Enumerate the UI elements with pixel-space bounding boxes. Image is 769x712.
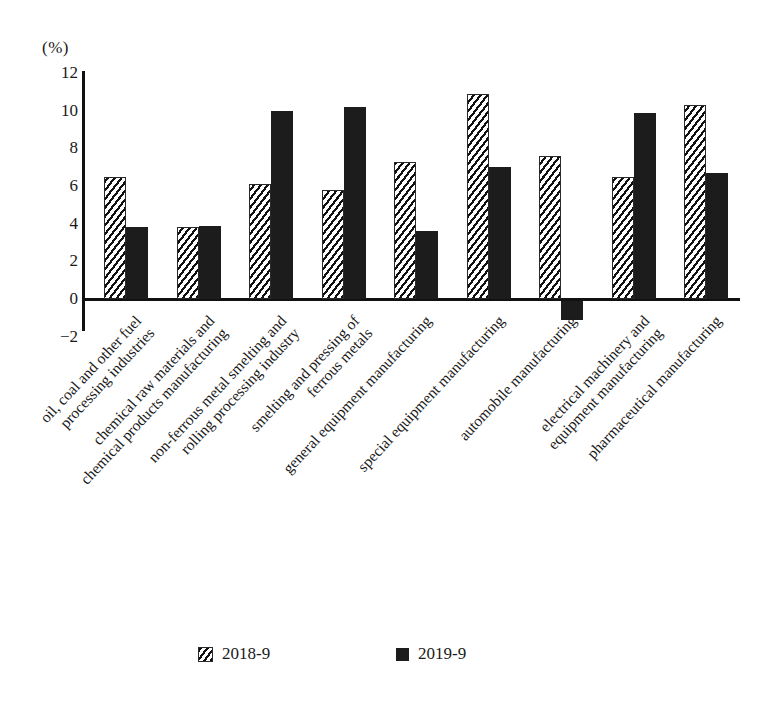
x-axis-category-labels: oil, coal and other fuelprocessing indus… <box>0 0 769 712</box>
legend-label-2018-9: 2018-9 <box>222 644 270 664</box>
legend-label-2019-9: 2019-9 <box>418 644 466 664</box>
solid-square-swatch-icon <box>396 648 409 661</box>
hatched-square-swatch-icon <box>198 647 213 662</box>
chart-legend: 2018-9 2019-9 <box>0 644 769 674</box>
bar-chart: (%) 121086420−2 oil, coal and other fuel… <box>0 0 769 712</box>
legend-item-2018-9: 2018-9 <box>198 644 270 664</box>
legend-item-2019-9: 2019-9 <box>396 644 466 664</box>
